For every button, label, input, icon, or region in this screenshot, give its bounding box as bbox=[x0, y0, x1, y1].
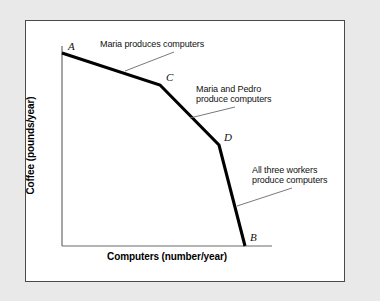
leader-line-segment-cd bbox=[190, 107, 235, 118]
leader-line-segment-ac bbox=[125, 52, 174, 71]
point-label-d: D bbox=[224, 132, 232, 143]
point-label-c: C bbox=[166, 72, 173, 83]
annotation-segment-cd: Maria and Pedro produce computers bbox=[196, 84, 271, 104]
annotation-line: All three workers bbox=[252, 165, 327, 175]
annotation-line: Maria produces computers bbox=[100, 39, 204, 49]
y-axis-label: Coffee (pounds/year) bbox=[25, 66, 36, 226]
ppf-curve bbox=[62, 53, 245, 246]
x-axis-label: Computers (number/year) bbox=[62, 251, 272, 262]
point-label-b: B bbox=[250, 232, 257, 243]
leader-line-segment-db bbox=[237, 188, 292, 206]
annotation-segment-db: All three workers produce computers bbox=[252, 165, 327, 185]
point-label-a: A bbox=[68, 41, 75, 52]
figure-root: Maria produces computers Maria and Pedro… bbox=[0, 0, 380, 301]
annotation-line: produce computers bbox=[196, 94, 271, 104]
annotation-line: produce computers bbox=[252, 175, 327, 185]
annotation-line: Maria and Pedro bbox=[196, 84, 271, 94]
annotation-segment-ac: Maria produces computers bbox=[100, 39, 204, 49]
